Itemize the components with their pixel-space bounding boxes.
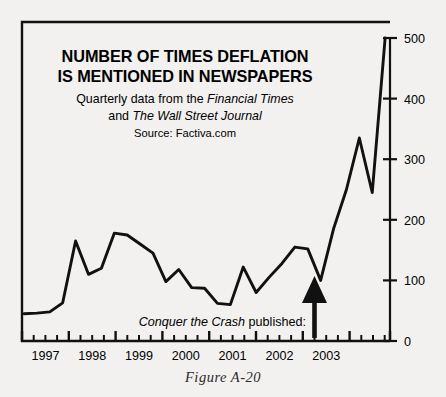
x-tick-label: 1999: [125, 349, 153, 363]
y-tick-label: 500: [404, 32, 425, 46]
subtitle-italic-1: Financial Times: [207, 92, 294, 106]
annotation-italic-text: Conquer the Crash: [139, 315, 245, 329]
annotation-label: Conquer the Crash published:: [139, 315, 306, 329]
x-tick-label: 1998: [78, 349, 106, 363]
chart-title-line-2: IS MENTIONED IN NEWSPAPERS: [58, 67, 313, 85]
y-tick-label: 0: [404, 335, 411, 349]
x-tick-label: 2001: [219, 349, 247, 363]
subtitle-prefix-2: and: [108, 109, 132, 123]
chart-subtitle-line-1: Quarterly data from the Financial Times: [76, 92, 294, 106]
deflation-mentions-line-chart: 500 400 300 200 100 0: [0, 0, 446, 397]
y-tick-label: 100: [404, 274, 425, 288]
y-tick-label: 300: [404, 153, 425, 167]
annotation-regular-text: published:: [245, 315, 306, 329]
y-tick-label: 400: [404, 93, 425, 107]
chart-title-line-1: NUMBER OF TIMES DEFLATION: [62, 47, 309, 65]
y-tick-label: 200: [404, 214, 425, 228]
x-tick-label: 2003: [312, 349, 340, 363]
x-tick-label: 1997: [31, 349, 59, 363]
figure-container: 500 400 300 200 100 0: [0, 0, 446, 397]
subtitle-italic-2: The Wall Street Journal: [132, 109, 262, 123]
subtitle-prefix-1: Quarterly data from the: [76, 92, 207, 106]
x-tick-label: 2000: [172, 349, 200, 363]
chart-subtitle-line-2: and The Wall Street Journal: [108, 109, 263, 123]
x-tick-label: 2002: [265, 349, 293, 363]
chart-source-note: Source: Factiva.com: [134, 127, 236, 139]
figure-caption: Figure A-20: [0, 369, 446, 386]
